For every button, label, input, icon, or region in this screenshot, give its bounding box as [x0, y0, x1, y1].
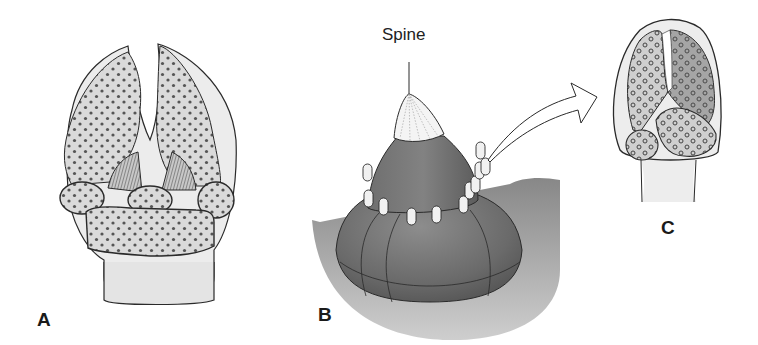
panel-c-illustration: [614, 20, 721, 202]
callout-spine: Spine: [382, 25, 425, 44]
panel-label-b: B: [318, 304, 332, 325]
figure-pedicellariae: A: [0, 0, 758, 345]
panel-label-a: A: [37, 309, 51, 330]
panel-b-illustration: [312, 62, 597, 340]
panel-label-c: C: [661, 217, 675, 238]
zoom-arrow: [488, 83, 597, 162]
panel-a-illustration: [60, 44, 236, 305]
